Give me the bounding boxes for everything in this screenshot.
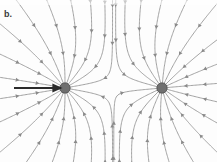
panel-label: b.: [4, 10, 12, 19]
right-charge: [157, 83, 167, 93]
charge-group: [60, 83, 167, 93]
left-charge: [60, 83, 70, 93]
field-lines-canvas: [0, 0, 217, 162]
field-line-group: [0, 0, 217, 162]
field-line-figure: b.: [0, 0, 217, 162]
